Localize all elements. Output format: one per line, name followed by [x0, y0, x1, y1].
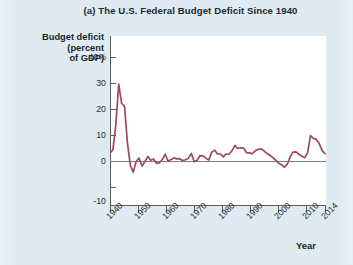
deficit-series-plot — [110, 36, 326, 206]
y-tick-label-10: 10 — [66, 130, 106, 140]
chart-title: (a) The U.S. Federal Budget Deficit Sinc… — [0, 5, 353, 16]
y-tick-label-40: 40% — [66, 52, 106, 62]
y-tick-label-neg10: -10 — [66, 196, 106, 206]
x-axis-title: Year — [296, 240, 316, 251]
figure-panel: (a) The U.S. Federal Budget Deficit Sinc… — [0, 0, 353, 265]
deficit-line — [110, 84, 325, 172]
y-axis-title-line-1: Budget deficit — [8, 32, 104, 43]
y-tick-label-30: 30 — [66, 78, 106, 88]
y-tick-label-20: 20 — [66, 104, 106, 114]
y-tick-label-0: 0 — [66, 156, 106, 166]
